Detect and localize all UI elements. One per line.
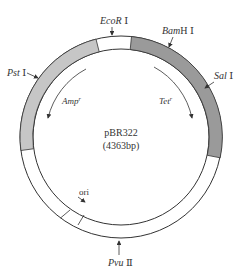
label-tet: Tetr	[159, 96, 173, 106]
label-psti: Pst Ⅰ	[6, 67, 26, 78]
label-pvuii: Pvu Ⅱ	[107, 257, 133, 268]
psti-arrow	[27, 73, 38, 78]
amp-resistance-segment	[20, 39, 99, 150]
bamhi-arrow	[169, 37, 173, 47]
label-ori: ori	[79, 187, 89, 197]
label-bamhi: BamH Ⅰ	[162, 25, 194, 36]
label-ecori: EcoR Ⅰ	[99, 15, 128, 26]
ori-segment	[61, 210, 85, 225]
label-amp: Ampr	[61, 96, 82, 106]
plasmid-name: pBR322	[104, 127, 137, 138]
plasmid-map: EcoR Ⅰ BamH Ⅰ Sal Ⅰ Pst Ⅰ Pvu Ⅱ Ampr Tet…	[0, 0, 240, 277]
ori-arrow	[78, 197, 85, 202]
plasmid-size: (4363bp)	[103, 140, 140, 152]
label-sali: Sal Ⅰ	[214, 70, 233, 81]
